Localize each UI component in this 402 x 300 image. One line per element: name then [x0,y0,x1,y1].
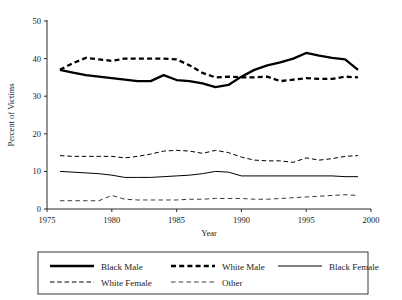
axis-spines [47,20,371,209]
y-tick-label: 30 [33,91,42,101]
x-tick-label: 1995 [298,215,315,225]
x-tick-label: 1990 [233,215,250,225]
series-layer [60,53,358,201]
series-line-black-female [60,171,358,177]
series-line-black-male [60,53,358,87]
x-tick-label: 1980 [103,215,120,225]
chart-container: 01020304050Percent of Victims19751980198… [0,0,402,300]
x-axis: 197519801985199019952000Year [39,209,380,238]
legend-label-black-male: Black Male [101,262,143,272]
y-tick-label: 50 [33,16,42,26]
victims-by-race-sex-line-chart: 01020304050Percent of Victims19751980198… [0,0,402,300]
y-tick-label: 20 [33,129,42,139]
y-axis-title: Percent of Victims [6,83,16,146]
legend-label-other: Other [222,278,243,288]
series-line-other [60,195,358,201]
plot-axes [47,20,371,209]
legend-label-white-male: White Male [222,262,265,272]
x-tick-label: 1985 [168,215,185,225]
y-tick-label: 40 [33,54,42,64]
y-axis: 01020304050Percent of Victims [6,16,47,214]
x-tick-label: 2000 [363,215,380,225]
y-tick-label: 10 [33,166,42,176]
legend: Black MaleWhite MaleBlack FemaleWhite Fe… [38,252,379,294]
legend-label-black-female: Black Female [329,262,379,272]
series-line-white-female [60,150,358,162]
y-tick-label: 0 [37,204,41,214]
legend-label-white-female: White Female [101,278,152,288]
x-tick-label: 1975 [39,215,56,225]
legend-border [38,252,368,294]
x-axis-title: Year [201,228,217,238]
